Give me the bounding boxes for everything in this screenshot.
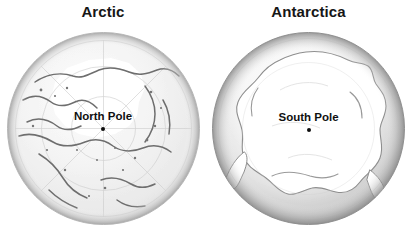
panel-title-arctic: Arctic [0, 2, 206, 22]
north-pole-marker-icon [101, 127, 105, 131]
panel-arctic: Arctic [0, 0, 206, 244]
south-pole-marker-icon [307, 128, 311, 132]
panel-title-antarctica: Antarctica [206, 2, 411, 22]
polar-regions-figure: Arctic [0, 0, 411, 244]
panel-antarctica: Antarctica [206, 0, 411, 244]
